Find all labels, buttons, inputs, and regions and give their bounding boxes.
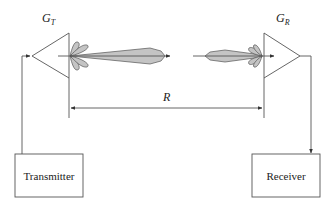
receive-antenna-icon — [264, 33, 300, 78]
transmit-antenna-icon — [32, 33, 69, 78]
transmit-gain-label: GT — [42, 11, 56, 27]
receiver-label: Receiver — [266, 170, 305, 182]
transmitter-feed-line — [22, 56, 30, 154]
antenna-link-diagram: GT GR R — [0, 0, 334, 204]
transmitter-box: Transmitter — [15, 154, 83, 197]
receiver-box: Receiver — [252, 154, 320, 197]
transmit-radiation-pattern — [58, 42, 170, 70]
receive-gain-label: GR — [276, 11, 290, 27]
receiver-feed-line — [300, 56, 311, 153]
range-dimension: R — [69, 78, 264, 118]
svg-text:GT: GT — [42, 11, 56, 27]
range-label: R — [162, 90, 171, 104]
receive-radiation-pattern — [193, 45, 274, 67]
svg-text:GR: GR — [276, 11, 290, 27]
transmitter-label: Transmitter — [24, 170, 75, 182]
